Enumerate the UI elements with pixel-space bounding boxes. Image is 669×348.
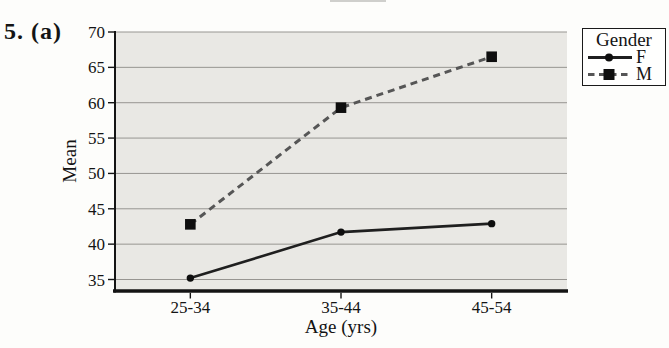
y-tick-label: 60 xyxy=(88,94,105,113)
x-axis-title: Age (yrs) xyxy=(305,316,377,338)
f-line-sample-icon xyxy=(587,50,634,65)
marker-square xyxy=(185,219,196,230)
y-tick-label: 70 xyxy=(88,23,105,42)
y-tick-label: 50 xyxy=(88,164,105,183)
page-background: 5. (a) 354045505560657025-3435-4445-54 M… xyxy=(0,0,669,348)
y-tick-label: 65 xyxy=(88,58,105,77)
legend-title: Gender xyxy=(583,30,665,49)
line-chart: 354045505560657025-3435-4445-54 xyxy=(0,0,669,348)
y-axis-title: Mean xyxy=(59,139,81,182)
y-tick-label: 45 xyxy=(88,200,105,219)
y-tick-label: 55 xyxy=(88,129,105,148)
x-tick-label: 25-34 xyxy=(170,298,210,317)
marker-circle xyxy=(337,228,344,235)
marker-circle xyxy=(187,274,194,281)
y-tick-label: 40 xyxy=(88,235,105,254)
m-line-sample-icon xyxy=(587,67,634,82)
legend-label-m: M xyxy=(636,66,652,83)
marker-square xyxy=(486,51,497,62)
legend-item-m: M xyxy=(583,66,665,83)
legend-item-f: F xyxy=(583,49,665,66)
marker-circle xyxy=(488,220,495,227)
x-tick-label: 45-54 xyxy=(472,298,512,317)
plot-area xyxy=(115,32,567,290)
marker-square xyxy=(336,102,347,113)
x-tick-label: 35-44 xyxy=(321,298,361,317)
y-tick-label: 35 xyxy=(88,271,105,290)
legend: Gender F M xyxy=(582,28,666,86)
